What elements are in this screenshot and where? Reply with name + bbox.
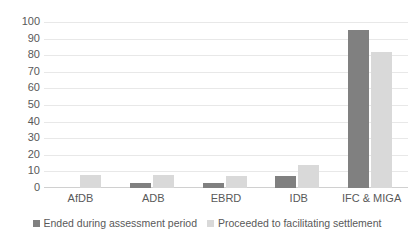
bar[interactable] bbox=[275, 176, 296, 188]
y-axis-tick-label: 0 bbox=[0, 182, 40, 193]
y-axis-tick-label: 80 bbox=[0, 49, 40, 60]
bar-group bbox=[335, 22, 408, 188]
y-axis-tick-label: 100 bbox=[0, 16, 40, 27]
x-axis-tick-label: AfDB bbox=[44, 191, 117, 205]
legend-label: Ended during assessment period bbox=[44, 217, 198, 229]
bars-layer bbox=[44, 22, 408, 188]
bar[interactable] bbox=[153, 175, 174, 188]
bar-group bbox=[44, 22, 117, 188]
legend-entry[interactable]: Ended during assessment period bbox=[33, 217, 198, 229]
bar[interactable] bbox=[348, 30, 369, 188]
bar-group bbox=[190, 22, 263, 188]
bar[interactable] bbox=[80, 175, 101, 188]
bar[interactable] bbox=[226, 176, 247, 188]
bar-group bbox=[117, 22, 190, 188]
x-axis-tick-label: ADB bbox=[117, 191, 190, 205]
legend-swatch-icon bbox=[33, 220, 40, 227]
x-axis-tick-label: IFC & MIGA bbox=[335, 191, 408, 205]
bar[interactable] bbox=[298, 165, 319, 188]
y-axis-tick-label: 40 bbox=[0, 116, 40, 127]
x-axis-tick-label: IDB bbox=[262, 191, 335, 205]
y-axis-tick-label: 20 bbox=[0, 149, 40, 160]
y-axis-tick-label: 30 bbox=[0, 132, 40, 143]
bar[interactable] bbox=[130, 183, 151, 188]
legend-swatch-icon bbox=[207, 220, 214, 227]
y-axis-tick-label: 50 bbox=[0, 99, 40, 110]
bar[interactable] bbox=[203, 183, 224, 188]
chart-legend: Ended during assessment periodProceeded … bbox=[0, 215, 414, 231]
x-axis: AfDBADBEBRDIDBIFC & MIGA bbox=[44, 191, 408, 207]
bar-group bbox=[262, 22, 335, 188]
bar[interactable] bbox=[371, 52, 392, 188]
y-axis-tick-label: 90 bbox=[0, 33, 40, 44]
legend-entry[interactable]: Proceeded to facilitating settlement bbox=[207, 217, 381, 229]
y-axis-tick-label: 70 bbox=[0, 66, 40, 77]
plot-area bbox=[44, 22, 408, 188]
y-axis-tick-label: 60 bbox=[0, 82, 40, 93]
y-axis: 1009080706050403020100 bbox=[0, 0, 40, 200]
x-axis-tick-label: EBRD bbox=[190, 191, 263, 205]
y-axis-tick-label: 10 bbox=[0, 165, 40, 176]
bar-chart: 1009080706050403020100 AfDBADBEBRDIDBIFC… bbox=[0, 0, 414, 234]
legend-label: Proceeded to facilitating settlement bbox=[218, 217, 381, 229]
